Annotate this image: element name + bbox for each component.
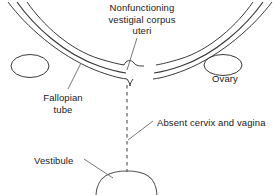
label-ovary: Ovary: [198, 73, 252, 85]
anatomy-diagram: Nonfunctioning vestigial corpus uteri Fa…: [0, 0, 280, 195]
uterus-bump-top: [124, 61, 144, 66]
leader-line-absent-cervix: [128, 121, 153, 140]
label-vestibule: Vestibule: [34, 155, 94, 167]
left-ovary: [11, 55, 49, 78]
leader-line-fallopian-tube: [68, 63, 81, 89]
vestigial-corpus-uteri: [124, 61, 144, 86]
label-fallopian-tube: Fallopian tube: [27, 92, 99, 115]
vestibule-arc: [96, 171, 157, 195]
uterus-body-taper: [127, 79, 133, 86]
label-absent-cervix-and-vagina: Absent cervix and vagina: [157, 117, 280, 129]
label-vestigial-corpus-uteri: Nonfunctioning vestigial corpus uteri: [72, 2, 212, 37]
leader-line-vestigial-uteri: [127, 38, 137, 70]
